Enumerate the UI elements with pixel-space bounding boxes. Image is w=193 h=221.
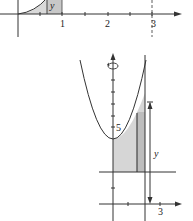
top-panel: 1 2 3 y bbox=[0, 0, 182, 37]
bottom-strip bbox=[137, 112, 145, 172]
bottom-x-axis-arrow-icon bbox=[175, 202, 182, 207]
arrow-down-icon bbox=[148, 197, 153, 204]
x-tick-label-3: 3 bbox=[158, 206, 163, 217]
height-label: y bbox=[153, 148, 159, 159]
x-axis-arrow-icon bbox=[174, 12, 182, 17]
top-strip-label: y bbox=[49, 0, 55, 11]
y-axis-arrow-icon bbox=[111, 53, 116, 60]
bottom-panel: 5 3 y bbox=[80, 53, 182, 221]
tick-label-3: 3 bbox=[151, 18, 156, 29]
solid-of-revolution-diagram: 1 2 3 y 5 bbox=[0, 0, 193, 221]
y-tick-label-5: 5 bbox=[116, 122, 121, 133]
arrow-up-icon bbox=[148, 102, 153, 109]
tick-label-2: 2 bbox=[105, 18, 110, 29]
tick-label-1: 1 bbox=[60, 18, 65, 29]
